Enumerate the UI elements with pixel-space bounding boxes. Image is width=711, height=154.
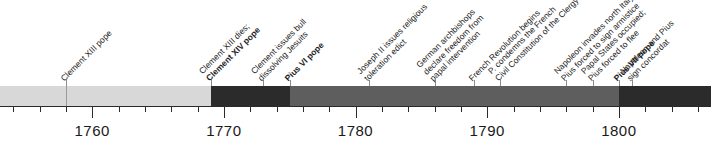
event-label-clement-xiv-pope: Clement XIII dies;Clement XIV pope <box>197 18 262 83</box>
axis-tick-minor <box>119 106 120 112</box>
year-axis: 17601770178017901800 <box>0 106 711 154</box>
axis-tick-minor <box>303 106 304 112</box>
axis-tick-minor <box>198 106 199 112</box>
axis-tick-minor <box>382 106 383 112</box>
axis-tick-minor <box>593 106 594 112</box>
axis-tick-minor <box>540 106 541 112</box>
axis-tick-minor <box>277 106 278 112</box>
bar-divider-clement-xiii-start <box>66 86 67 106</box>
bar-segment-pius-vii <box>619 86 711 106</box>
axis-tick-minor <box>329 106 330 112</box>
axis-tick-minor <box>435 106 436 112</box>
event-label-bull-dissolving-jesuits: Clement issues bulldissolving Jesuits <box>250 17 316 83</box>
bar-segment-clement-xiv <box>211 86 290 106</box>
bar-segment-benedict-xiv <box>0 86 66 106</box>
axis-tick-minor <box>250 106 251 112</box>
axis-tick-label-1770: 1770 <box>206 122 241 139</box>
axis-tick-label-1760: 1760 <box>74 122 109 139</box>
axis-tick-minor <box>514 106 515 112</box>
axis-tick-minor <box>40 106 41 112</box>
event-label-line: Clement XIII pope <box>59 28 114 83</box>
axis-tick-minor <box>408 106 409 112</box>
axis-tick-label-1780: 1780 <box>338 122 373 139</box>
axis-tick-major-1790 <box>487 106 488 118</box>
event-label-clement-xiii-pope: Clement XIII pope <box>59 28 114 83</box>
axis-tick-minor <box>672 106 673 112</box>
axis-tick-minor <box>145 106 146 112</box>
bar-segment-clement-xiii <box>66 86 211 106</box>
axis-tick-minor <box>66 106 67 112</box>
bar-segment-pius-vi <box>290 86 619 106</box>
timeline-figure: Clement XIII popeClement XIII dies;Cleme… <box>0 0 711 154</box>
axis-tick-major-1800 <box>619 106 620 118</box>
axis-tick-major-1760 <box>92 106 93 118</box>
axis-tick-minor <box>645 106 646 112</box>
axis-tick-minor <box>171 106 172 112</box>
axis-tick-label-1800: 1800 <box>601 122 636 139</box>
axis-tick-minor <box>13 106 14 112</box>
axis-tick-minor <box>566 106 567 112</box>
axis-tick-minor <box>461 106 462 112</box>
axis-tick-label-1790: 1790 <box>469 122 504 139</box>
axis-tick-minor <box>698 106 699 112</box>
axis-tick-major-1780 <box>356 106 357 118</box>
axis-tick-major-1770 <box>224 106 225 118</box>
pontificate-bar <box>0 86 711 106</box>
